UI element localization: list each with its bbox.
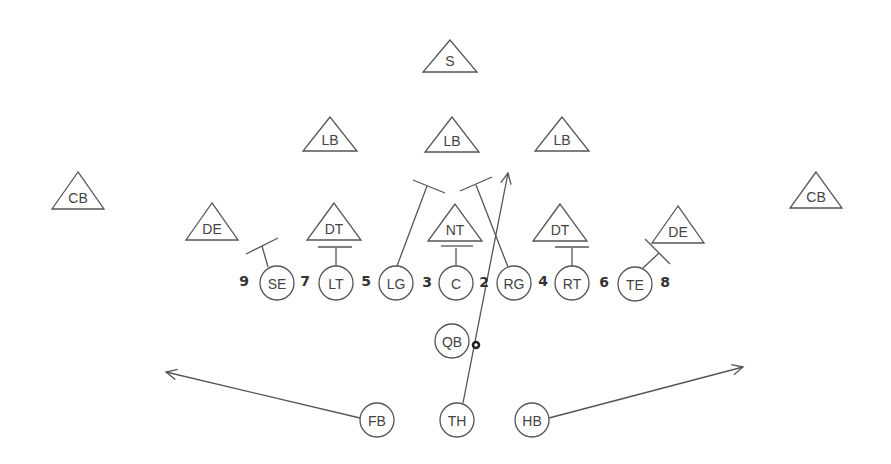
offense-player-fb: FB — [360, 403, 394, 437]
defender-cb1: CB — [52, 172, 104, 209]
defensive-players: SLBLBLBCBCBDEDTNTDTDE — [52, 40, 842, 243]
hole-number: 6 — [599, 274, 609, 290]
offense-player-rg: RG — [497, 266, 531, 300]
defender-label: DT — [325, 221, 344, 237]
football-marker — [473, 342, 479, 348]
offense-player-te: TE — [618, 267, 652, 301]
block-line — [643, 253, 659, 268]
player-label: C — [451, 276, 461, 292]
block-se — [246, 238, 278, 267]
player-label: RT — [563, 276, 582, 292]
offensive-players: SELTLGCRGRTTEQBFBTHHB — [260, 266, 652, 437]
block-line — [397, 186, 427, 266]
player-label: FB — [368, 413, 386, 429]
defender-label: S — [445, 53, 454, 69]
route-line — [166, 372, 360, 418]
defender-label: DT — [551, 222, 570, 238]
player-label: HB — [522, 413, 541, 429]
player-label: LG — [387, 276, 406, 292]
hole-number: 4 — [538, 273, 548, 289]
block-cap-icon — [460, 177, 492, 191]
player-label: LT — [328, 276, 344, 292]
defender-s: S — [423, 40, 477, 72]
block-line — [262, 246, 268, 267]
defender-lb1: LB — [303, 117, 357, 151]
defender-de1: DE — [186, 203, 238, 240]
hole-number: 8 — [660, 274, 670, 290]
hole-number: 5 — [361, 273, 371, 289]
offense-player-rt: RT — [555, 266, 589, 300]
offense-player-qb: QB — [435, 324, 469, 358]
block-rt — [555, 247, 589, 266]
offense-player-lg: LG — [379, 266, 413, 300]
ball-icon — [473, 342, 479, 348]
defender-dt1: DT — [307, 203, 361, 240]
block-cap-icon — [413, 180, 445, 193]
defender-nt: NT — [428, 204, 482, 241]
hole-number: 3 — [422, 274, 432, 290]
defender-label: CB — [68, 190, 87, 206]
defender-label: CB — [806, 189, 825, 205]
route-hb — [549, 365, 743, 418]
play-diagram: SLBLBLBCBCBDEDTNTDTDE SELTLGCRGRTTEQBFBT… — [0, 0, 891, 464]
defender-label: DE — [202, 221, 221, 237]
offense-player-c: C — [439, 266, 473, 300]
offense-player-lt: LT — [319, 266, 353, 300]
block-lt — [318, 247, 352, 266]
offense-player-th: TH — [440, 403, 474, 437]
defender-label: LB — [443, 133, 460, 149]
defender-label: NT — [446, 222, 465, 238]
player-label: SE — [268, 276, 287, 292]
route-fb — [166, 369, 360, 418]
player-label: TE — [626, 277, 644, 293]
hole-number: 9 — [239, 273, 249, 289]
offense-player-hb: HB — [515, 403, 549, 437]
defender-cb2: CB — [790, 172, 842, 208]
offense-player-se: SE — [260, 266, 294, 300]
defender-de2: DE — [652, 206, 704, 243]
player-label: QB — [442, 334, 462, 350]
hole-number: 2 — [479, 274, 489, 290]
block-cap-icon — [246, 238, 278, 254]
defender-label: LB — [553, 132, 570, 148]
player-label: RG — [504, 276, 525, 292]
route-line — [549, 367, 743, 418]
defender-lb2: LB — [425, 117, 479, 152]
block-lg — [397, 180, 445, 266]
block-c — [441, 246, 473, 266]
player-label: TH — [448, 413, 467, 429]
defender-label: LB — [321, 132, 338, 148]
defender-lb3: LB — [535, 117, 589, 151]
defender-dt2: DT — [533, 204, 587, 241]
defender-label: DE — [668, 224, 687, 240]
hole-number: 7 — [300, 273, 310, 289]
